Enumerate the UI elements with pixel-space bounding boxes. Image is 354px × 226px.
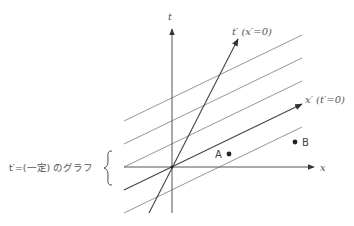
origin-point (171, 166, 174, 169)
t-prime-axis (149, 39, 238, 213)
x-axis-label: x (320, 162, 326, 173)
t-prime-line-2 (124, 58, 302, 144)
point-a (227, 152, 232, 157)
brace-icon (104, 151, 112, 185)
constant-t-prime-lines (124, 35, 302, 213)
x-prime-axis (124, 104, 302, 190)
x-prime-axis-label: x′ (t′=0) (305, 94, 345, 105)
brace-label: t′=(一定) のグラフ (9, 162, 93, 173)
t-prime-line-3 (124, 81, 302, 167)
t-prime-line-1 (124, 35, 302, 121)
spacetime-diagram: t t′ (x′=0) x′ (t′=0) x A B t′=(一定) のグラフ (0, 0, 354, 226)
point-b (293, 140, 298, 145)
t-axis-label: t (168, 11, 173, 22)
t-prime-line-5 (124, 127, 302, 213)
t-prime-axis-label: t′ (x′=0) (232, 26, 272, 37)
point-b-label: B (302, 137, 309, 148)
point-a-label: A (215, 149, 222, 160)
